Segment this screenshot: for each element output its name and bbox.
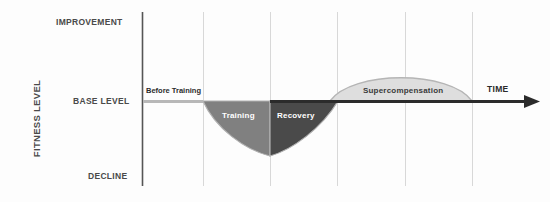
y-axis-label-improvement: IMPROVEMENT bbox=[56, 17, 123, 27]
training-area bbox=[203, 101, 270, 156]
training-region-label: Training bbox=[222, 111, 255, 120]
supercompensation-region-label: Supercompensation bbox=[363, 86, 443, 95]
y-axis-title: FITNESS LEVEL bbox=[31, 64, 42, 174]
recovery-region-label: Recovery bbox=[277, 111, 315, 120]
supercompensation-chart: IMPROVEMENT BASE LEVEL DECLINE FITNESS L… bbox=[0, 0, 550, 202]
recovery-area bbox=[270, 101, 338, 156]
before-training-label: Before Training bbox=[146, 86, 201, 95]
time-axis-arrowhead bbox=[524, 95, 540, 108]
x-axis-title: TIME bbox=[487, 84, 509, 94]
y-axis-label-base-level: BASE LEVEL bbox=[73, 96, 129, 106]
y-axis-label-decline: DECLINE bbox=[88, 171, 127, 181]
